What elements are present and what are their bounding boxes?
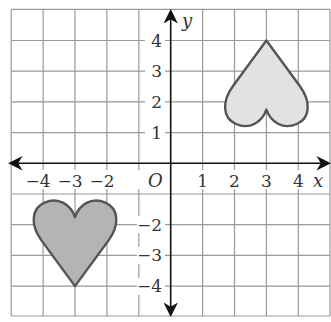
origin-label: O [148,170,163,191]
y-tick-4: 4 [151,31,162,51]
x-tick-4: 4 [293,171,304,191]
y-tick-neg4: −4 [137,276,162,296]
y-tick-neg3: −3 [137,245,162,265]
y-tick-1: 1 [151,123,162,143]
x-tick-1: 1 [197,171,208,191]
x-tick-3: 3 [261,171,272,191]
y-tick-neg2: −2 [137,215,162,235]
y-tick-3: 3 [151,61,162,81]
grid-canvas: y x O −4 −3 −2 1 2 3 4 4 3 2 1 −2 −3 −4 [0,0,331,322]
coordinate-grid-diagram: y x O −4 −3 −2 1 2 3 4 4 3 2 1 −2 −3 −4 [0,0,331,322]
x-tick-neg4: −4 [25,171,50,191]
x-tick-labels: −4 −3 −2 1 2 3 4 [25,171,303,191]
y-tick-2: 2 [151,92,162,112]
x-tick-neg3: −3 [57,171,82,191]
x-axis-label: x [313,170,323,191]
x-tick-2: 2 [229,171,240,191]
x-tick-neg2: −2 [89,171,114,191]
y-axis-label: y [181,10,193,31]
